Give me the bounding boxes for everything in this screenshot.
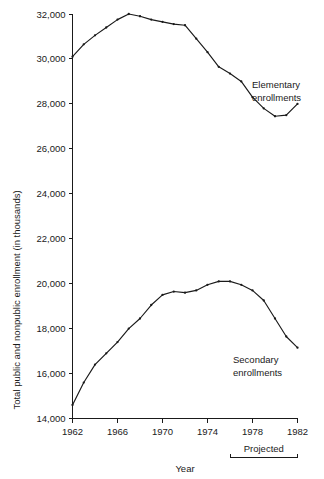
series-label-elementary-line1: Elementary bbox=[252, 79, 300, 90]
data-point-marker bbox=[195, 38, 197, 40]
data-point-marker bbox=[229, 72, 231, 74]
data-point-marker bbox=[116, 341, 118, 343]
data-point-marker bbox=[240, 284, 242, 286]
data-point-marker bbox=[150, 18, 152, 20]
data-point-marker bbox=[285, 114, 287, 116]
data-point-marker bbox=[94, 34, 96, 36]
x-tick-label: 1970 bbox=[152, 426, 173, 437]
x-tick-label: 1962 bbox=[62, 426, 83, 437]
data-point-marker bbox=[218, 280, 220, 282]
y-axis-title: Total public and nonpublic enrollment (i… bbox=[11, 190, 22, 409]
data-point-marker bbox=[139, 317, 141, 319]
data-point-marker bbox=[184, 292, 186, 294]
data-point-marker bbox=[139, 15, 141, 17]
data-point-marker bbox=[94, 363, 96, 365]
data-point-marker bbox=[128, 13, 130, 15]
data-point-marker bbox=[251, 289, 253, 291]
y-tick-label: 14,000 bbox=[36, 413, 65, 424]
x-axis-title: Year bbox=[175, 463, 194, 474]
data-point-marker bbox=[206, 51, 208, 53]
data-point-marker bbox=[150, 304, 152, 306]
y-tick-label: 32,000 bbox=[36, 9, 65, 20]
projected-label: Projected bbox=[244, 443, 284, 454]
data-point-marker bbox=[116, 18, 118, 20]
data-point-marker bbox=[173, 23, 175, 25]
data-point-marker bbox=[263, 299, 265, 301]
data-point-marker bbox=[206, 284, 208, 286]
y-axis-ticks: 14,00016,00018,00020,00022,00024,00026,0… bbox=[36, 9, 72, 425]
data-point-marker bbox=[274, 115, 276, 117]
y-tick-label: 26,000 bbox=[36, 143, 65, 154]
x-tick-label: 1978 bbox=[242, 426, 263, 437]
series-label-elementary-line2: enrollments bbox=[252, 92, 301, 103]
data-point-marker bbox=[105, 26, 107, 28]
data-point-marker bbox=[105, 352, 107, 354]
data-point-marker bbox=[263, 107, 265, 109]
x-tick-label: 1982 bbox=[287, 426, 308, 437]
data-point-marker bbox=[229, 280, 231, 282]
enrollment-line-chart: Total public and nonpublic enrollment (i… bbox=[0, 0, 324, 479]
x-tick-label: 1966 bbox=[107, 426, 128, 437]
data-point-marker bbox=[296, 347, 298, 349]
data-point-marker bbox=[285, 335, 287, 337]
projected-bracket bbox=[230, 454, 298, 458]
data-point-marker bbox=[128, 327, 130, 329]
x-axis-ticks: 196219661970197419781982 bbox=[62, 419, 308, 437]
y-tick-label: 18,000 bbox=[36, 323, 65, 334]
data-point-marker bbox=[195, 289, 197, 291]
data-point-marker bbox=[71, 56, 73, 58]
data-point-marker bbox=[71, 404, 73, 406]
y-tick-label: 30,000 bbox=[36, 53, 65, 64]
data-point-marker bbox=[274, 317, 276, 319]
data-point-marker bbox=[83, 43, 85, 45]
y-tick-label: 24,000 bbox=[36, 188, 65, 199]
data-point-marker bbox=[296, 103, 298, 105]
y-tick-label: 16,000 bbox=[36, 368, 65, 379]
x-tick-label: 1974 bbox=[197, 426, 218, 437]
series-label-secondary-line1: Secondary bbox=[233, 354, 279, 365]
data-point-marker bbox=[83, 381, 85, 383]
y-tick-label: 28,000 bbox=[36, 98, 65, 109]
data-point-marker bbox=[218, 66, 220, 68]
series-label-secondary-line2: enrollments bbox=[233, 367, 282, 378]
data-point-marker bbox=[161, 294, 163, 296]
data-point-marker bbox=[173, 290, 175, 292]
data-point-marker bbox=[161, 21, 163, 23]
data-point-marker bbox=[240, 80, 242, 82]
data-point-marker bbox=[184, 24, 186, 26]
chart-container: Total public and nonpublic enrollment (i… bbox=[0, 0, 324, 479]
y-tick-label: 20,000 bbox=[36, 278, 65, 289]
series-markers-secondary bbox=[71, 280, 298, 406]
y-tick-label: 22,000 bbox=[36, 233, 65, 244]
